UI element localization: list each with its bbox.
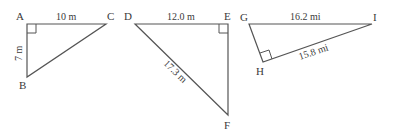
vertex-label-e: E [224, 10, 231, 22]
side-length-gi: 16.2 mi [290, 11, 321, 22]
vertex-label-g: G [240, 11, 248, 23]
side-length-de: 12.0 m [167, 11, 195, 22]
vertex-label-c: C [107, 10, 114, 22]
right-triangles-diagram: A C B 10 m 7 m D E F 12.0 m 17.3 m G I H… [0, 0, 396, 137]
vertex-label-d: D [124, 10, 132, 22]
right-angle-marker-a [27, 24, 36, 33]
triangle-abc: A C B 10 m 7 m [13, 10, 114, 91]
vertex-label-i: I [373, 11, 377, 23]
vertex-label-f: F [224, 119, 230, 131]
side-length-ac: 10 m [56, 11, 77, 22]
right-angle-marker-e [219, 24, 228, 33]
side-length-ab: 7 m [13, 46, 24, 62]
vertex-label-b: B [19, 79, 26, 91]
vertex-label-h: H [256, 65, 264, 77]
triangle-ghi: G I H 16.2 mi 15.8 mi [240, 11, 377, 77]
triangle-def: D E F 12.0 m 17.3 m [124, 10, 231, 131]
triangle-abc-shape [27, 24, 106, 77]
side-length-df: 17.3 m [162, 58, 190, 85]
vertex-label-a: A [16, 10, 24, 22]
